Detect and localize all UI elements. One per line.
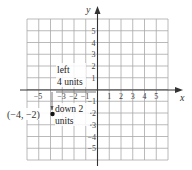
x-tick-label: 3 [131,92,135,101]
y-tick-label: 3 [92,50,96,59]
point-marker [50,112,54,116]
annotation-down-2: down 2 [55,104,83,114]
y-tick-label: −5 [88,144,97,153]
annotation-units: units [55,116,74,126]
y-tick-label: 4 [92,39,96,48]
y-tick-label: −4 [88,133,97,142]
plotted-point: (−4, −2) [6,108,55,121]
point-label: (−4, −2) [7,109,40,121]
down-arrow-icon [51,106,54,111]
x-axis-label: x [179,92,185,103]
x-tick-label: −5 [34,92,43,101]
x-tick-label: −2 [69,92,78,101]
x-tick-label: 5 [154,92,158,101]
y-axis-arrow-icon [95,6,101,14]
x-tick-label: 1 [107,92,111,101]
y-tick-label: 5 [92,27,96,36]
y-axis-label: y [85,4,91,15]
annotation-4-units: 4 units [57,77,83,87]
x-tick-label: 4 [143,92,147,101]
y-tick-label: 1 [92,74,96,83]
coordinate-plane: x y −5−3−2−11234554321−1−2−3−4−5 left 4 … [0,0,192,170]
x-tick-label: −3 [57,92,66,101]
y-tick-label: 2 [92,62,96,71]
axes: x y [20,4,185,166]
x-tick-label: 2 [119,92,123,101]
annotation-left: left [57,65,70,75]
